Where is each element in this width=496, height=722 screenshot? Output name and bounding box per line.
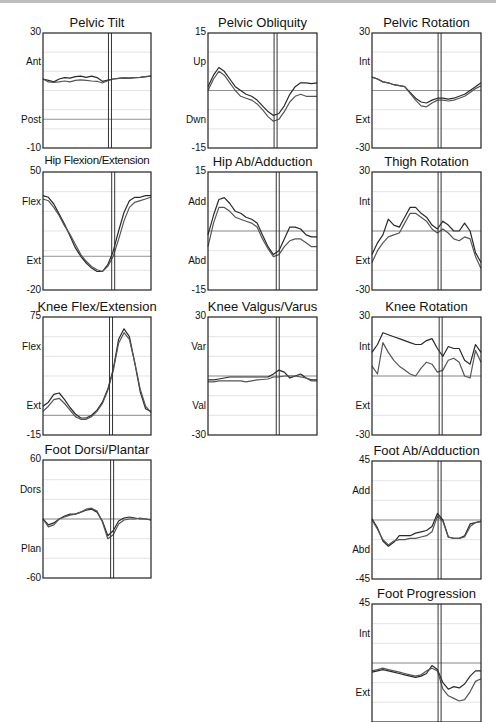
plot-area	[208, 172, 317, 290]
series-line-1	[208, 198, 317, 255]
y-axis-label-ytick-bottom: -15	[166, 142, 206, 153]
y-axis-label-lower-label: Ext	[330, 687, 370, 698]
y-axis-label-ytick-bottom: -60	[1, 572, 41, 583]
y-axis-label-ytick-bottom: -15	[1, 429, 41, 440]
chart-title: Thigh Rotation	[352, 154, 496, 169]
chart-title: Hip Ab/Adduction	[188, 154, 337, 169]
series-line-1	[43, 329, 151, 418]
y-axis-label-ytick-top: 45	[330, 597, 370, 608]
chart-title: Knee Flex/Extension	[23, 299, 171, 314]
plot-area	[372, 317, 481, 435]
y-axis-label-ytick-bottom: -30	[330, 429, 370, 440]
y-axis-label-lower-label: Ext	[330, 255, 370, 266]
series-line-1	[208, 370, 317, 380]
y-axis-label-upper-label: Int	[330, 341, 370, 352]
series-line-2	[43, 197, 151, 271]
series-line-1	[43, 509, 151, 536]
top-border	[0, 0, 496, 3]
y-axis-label-lower-label: Plan	[1, 543, 41, 554]
y-axis-label-upper-label: Add	[330, 485, 370, 496]
series-line-1	[372, 333, 481, 365]
series-line-2	[208, 207, 317, 256]
y-axis-label-upper-label: Ant	[1, 56, 41, 67]
chart-title: Foot Dorsi/Plantar	[23, 442, 171, 457]
plot-area	[372, 33, 481, 148]
chart-title: Knee Rotation	[352, 299, 496, 314]
y-axis-label-ytick-bottom: -30	[330, 284, 370, 295]
series-line-1	[372, 207, 481, 262]
y-axis-label-upper-label: Flex	[1, 341, 41, 352]
y-axis-label-upper-label: Flex	[1, 196, 41, 207]
y-axis-label-lower-label: Post	[1, 114, 41, 125]
series-line-1	[43, 196, 151, 272]
y-axis-label-lower-label: Ext	[1, 400, 41, 411]
y-axis-label-lower-label: Abd	[330, 544, 370, 555]
chart-title: Pelvic Rotation	[352, 15, 496, 30]
y-axis-label-ytick-bottom: -15	[166, 284, 206, 295]
y-axis-label-lower-label: Ext	[330, 114, 370, 125]
y-axis-label-ytick-bottom: -45	[330, 573, 370, 584]
y-axis-label-ytick-bottom: -20	[1, 284, 41, 295]
plot-area	[43, 460, 151, 578]
plot-area	[208, 317, 317, 435]
y-axis-label-ytick-top: 45	[330, 454, 370, 465]
y-axis-label-ytick-bottom: -10	[1, 142, 41, 153]
y-axis-label-ytick-top: 15	[166, 26, 206, 37]
y-axis-label-lower-label: Dwn	[166, 114, 206, 125]
y-axis-label-upper-label: Int	[330, 56, 370, 67]
plot-area	[43, 172, 151, 290]
plot-area	[372, 604, 481, 722]
y-axis-label-lower-label: Ext	[1, 255, 41, 266]
y-axis-label-ytick-bottom: -30	[330, 142, 370, 153]
y-axis-label-upper-label: Int	[330, 196, 370, 207]
y-axis-label-upper-label: Int	[330, 628, 370, 639]
chart-title: Foot Ab/Adduction	[352, 443, 496, 458]
chart-title: Knee Valgus/Varus	[188, 299, 337, 314]
chart-title: Pelvic Tilt	[23, 15, 171, 30]
y-axis-label-ytick-top: 50	[1, 165, 41, 176]
y-axis-label-ytick-top: 75	[1, 310, 41, 321]
y-axis-label-upper-label: Up	[166, 56, 206, 67]
plot-area	[43, 33, 151, 148]
series-line-1	[372, 513, 481, 546]
series-line-2	[208, 71, 317, 121]
y-axis-label-ytick-top: 60	[1, 453, 41, 464]
y-axis-label-ytick-bottom: -30	[166, 429, 206, 440]
y-axis-label-ytick-top: 30	[330, 310, 370, 321]
chart-title: Foot Progression	[352, 586, 496, 601]
chart-title: Pelvic Obliquity	[188, 15, 337, 30]
plot-area	[208, 33, 317, 148]
y-axis-label-ytick-top: 30	[330, 165, 370, 176]
plot-area	[43, 317, 151, 435]
chart-title: Hip Flexion/Extension	[23, 154, 171, 166]
y-axis-label-upper-label: Var	[166, 341, 206, 352]
plot-area	[372, 172, 481, 290]
y-axis-label-lower-label: Ext	[330, 400, 370, 411]
y-axis-label-ytick-top: 30	[330, 26, 370, 37]
y-axis-label-lower-label: Val	[166, 400, 206, 411]
y-axis-label-upper-label: Add	[166, 196, 206, 207]
y-axis-label-upper-label: Dors	[1, 484, 41, 495]
y-axis-label-lower-label: Abd	[166, 255, 206, 266]
plot-area	[372, 461, 481, 579]
y-axis-label-ytick-top: 30	[166, 310, 206, 321]
series-line-2	[372, 213, 481, 268]
y-axis-label-ytick-top: 15	[166, 165, 206, 176]
y-axis-label-ytick-top: 30	[1, 26, 41, 37]
